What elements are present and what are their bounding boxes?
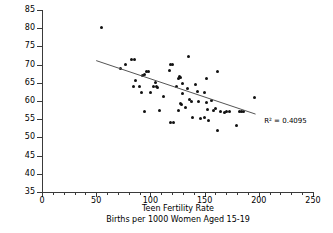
data-point [138, 85, 141, 88]
data-point [168, 69, 171, 72]
data-point [154, 81, 157, 84]
x-tick-60 [107, 192, 108, 195]
y-tick-label-35: 35 [25, 188, 35, 196]
y-tick-70 [37, 65, 42, 66]
y-tick-label-40: 40 [25, 170, 35, 178]
x-tick-130 [183, 192, 184, 195]
data-point [143, 73, 146, 76]
plot-area: 3540455055606570758085 050100150200250 R… [42, 10, 313, 192]
data-point [175, 85, 178, 88]
data-point [253, 96, 256, 99]
data-point [181, 82, 184, 85]
data-point [216, 70, 219, 73]
data-point [228, 110, 231, 113]
data-point [210, 99, 213, 102]
data-point [187, 55, 190, 58]
x-tick-10 [53, 192, 54, 195]
data-point [119, 67, 122, 70]
data-point [143, 110, 146, 113]
data-point [158, 109, 161, 112]
data-point [134, 79, 137, 82]
x-axis-title-line2: Births per 1000 Women Aged 15-19 [42, 214, 314, 225]
y-tick-40 [37, 174, 42, 175]
data-point [140, 91, 143, 94]
x-tick-190 [248, 192, 249, 195]
x-tick-140 [194, 192, 195, 195]
data-point [147, 70, 150, 73]
x-axis-line [42, 192, 314, 193]
x-axis-title: Teen Fertility Rate Births per 1000 Wome… [42, 203, 314, 225]
data-point [205, 77, 208, 80]
y-tick-65 [37, 83, 42, 84]
scatter-chart: 3540455055606570758085 050100150200250 R… [0, 0, 333, 233]
data-point [162, 95, 165, 98]
data-point [191, 116, 194, 119]
data-point [214, 107, 217, 110]
data-point [177, 109, 180, 112]
x-tick-170 [226, 192, 227, 195]
data-point [180, 103, 183, 106]
data-point [207, 119, 210, 122]
r-squared-annotation: R² = 0.4095 [264, 117, 306, 125]
y-tick-55 [37, 119, 42, 120]
x-tick-30 [75, 192, 76, 195]
x-tick-20 [64, 192, 65, 195]
data-point [190, 100, 193, 103]
y-tick-80 [37, 28, 42, 29]
x-tick-120 [172, 192, 173, 195]
y-tick-45 [37, 156, 42, 157]
data-point [100, 26, 103, 29]
y-tick-label-60: 60 [25, 97, 35, 105]
y-tick-85 [37, 10, 42, 11]
x-tick-90 [140, 192, 141, 195]
data-point [206, 108, 209, 111]
y-tick-label-50: 50 [25, 133, 35, 141]
data-point [194, 83, 197, 86]
y-tick-label-45: 45 [25, 152, 35, 160]
y-tick-50 [37, 137, 42, 138]
data-point [156, 86, 159, 89]
y-tick-75 [37, 46, 42, 47]
data-point [184, 106, 187, 109]
trendline [42, 10, 313, 192]
data-point [172, 121, 175, 124]
data-point [171, 63, 174, 66]
x-axis-title-line1: Teen Fertility Rate [42, 203, 314, 214]
y-tick-label-80: 80 [25, 24, 35, 32]
data-point [132, 85, 135, 88]
data-point [133, 58, 136, 61]
x-tick-220 [280, 192, 281, 195]
x-tick-240 [302, 192, 303, 195]
x-tick-80 [129, 192, 130, 195]
data-point [219, 110, 222, 113]
data-point [197, 100, 200, 103]
data-point [203, 91, 206, 94]
data-point [149, 91, 152, 94]
data-point [203, 116, 206, 119]
x-tick-110 [161, 192, 162, 195]
y-tick-label-70: 70 [25, 61, 35, 69]
x-tick-180 [237, 192, 238, 195]
x-tick-230 [291, 192, 292, 195]
x-tick-210 [270, 192, 271, 195]
x-tick-160 [215, 192, 216, 195]
y-tick-label-75: 75 [25, 42, 35, 50]
y-tick-label-85: 85 [25, 6, 35, 14]
data-point [186, 87, 189, 90]
x-tick-70 [118, 192, 119, 195]
y-tick-label-55: 55 [25, 115, 35, 123]
y-tick-label-65: 65 [25, 79, 35, 87]
data-point [199, 117, 202, 120]
data-point [124, 63, 127, 66]
x-tick-40 [85, 192, 86, 195]
data-point [242, 110, 245, 113]
data-point [196, 90, 199, 93]
data-point [235, 124, 238, 127]
data-point [181, 92, 184, 95]
y-tick-60 [37, 101, 42, 102]
data-point [205, 101, 208, 104]
data-point [216, 129, 219, 132]
data-point [179, 76, 182, 79]
